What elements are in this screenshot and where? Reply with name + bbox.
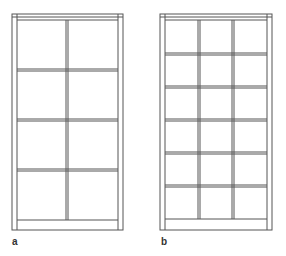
window-b	[160, 14, 272, 230]
window-diagrams	[0, 0, 286, 256]
panel-label-b: b	[161, 236, 167, 247]
frame-b-outer	[160, 14, 272, 230]
panel-label-a: a	[12, 236, 18, 247]
window-a	[12, 14, 123, 230]
